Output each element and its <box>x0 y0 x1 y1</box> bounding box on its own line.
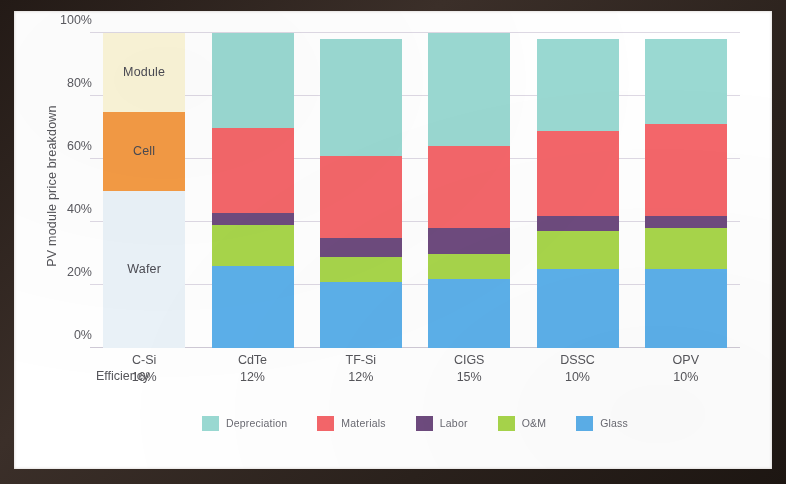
category-efficiency-value: 12% <box>307 369 415 386</box>
legend-label: O&M <box>522 417 547 429</box>
legend-item-materials[interactable]: Materials <box>317 416 385 431</box>
segment-glass[interactable] <box>320 282 402 348</box>
x-axis: Efficiency C-Si16%CdTe12%TF-Si12%CIGS15%… <box>90 352 740 398</box>
bar-group-cigs[interactable] <box>428 33 510 348</box>
pv-module-price-breakdown-chart: PV module price breakdown 100%80%60%40%2… <box>14 11 772 469</box>
y-tick-label-80: 80% <box>32 76 92 90</box>
x-axis-label-cigs: CIGS15% <box>415 352 523 386</box>
segment-o-m[interactable] <box>212 225 294 266</box>
category-efficiency-value: 15% <box>415 369 523 386</box>
bar-group-c-si[interactable]: ModuleCellWafer <box>103 33 185 348</box>
legend-label: Glass <box>600 417 628 429</box>
segment-materials[interactable] <box>320 156 402 238</box>
legend-item-glass[interactable]: Glass <box>576 416 628 431</box>
legend-swatch-icon <box>416 416 433 431</box>
category-efficiency-value: 12% <box>198 369 306 386</box>
segment-depreciation[interactable] <box>537 39 619 130</box>
bar-group-tf-si[interactable] <box>320 33 402 348</box>
bar-stack: ModuleCellWafer <box>103 33 185 348</box>
bar-group-dssc[interactable] <box>537 33 619 348</box>
segment-label-cell: Cell <box>103 144 185 158</box>
segment-labor[interactable] <box>428 228 510 253</box>
legend-label: Depreciation <box>226 417 287 429</box>
segment-o-m[interactable] <box>320 257 402 282</box>
x-axis-label-cdte: CdTe12% <box>198 352 306 386</box>
segment-label-module: Module <box>103 65 185 79</box>
bar-stack <box>212 33 294 348</box>
page-sheet: PV module price breakdown 100%80%60%40%2… <box>14 11 772 469</box>
legend-swatch-icon <box>576 416 593 431</box>
legend-item-labor[interactable]: Labor <box>416 416 468 431</box>
segment-glass[interactable] <box>645 269 727 348</box>
segment-depreciation[interactable] <box>428 33 510 146</box>
category-name: C-Si <box>90 352 198 369</box>
category-name: CdTe <box>198 352 306 369</box>
plot-area: 100%80%60%40%20%0% ModuleCellWafer <box>90 33 740 348</box>
category-name: CIGS <box>415 352 523 369</box>
segment-materials[interactable] <box>537 131 619 216</box>
bar-group-opv[interactable] <box>645 33 727 348</box>
legend-label: Materials <box>341 417 385 429</box>
segment-wafer[interactable]: Wafer <box>103 191 185 349</box>
segment-cell[interactable]: Cell <box>103 112 185 191</box>
segment-label-wafer: Wafer <box>103 262 185 276</box>
legend-item-depreciation[interactable]: Depreciation <box>202 416 287 431</box>
x-axis-label-c-si: C-Si16% <box>90 352 198 386</box>
segment-depreciation[interactable] <box>320 39 402 156</box>
category-efficiency-value: 16% <box>90 369 198 386</box>
category-name: DSSC <box>523 352 631 369</box>
segment-labor[interactable] <box>320 238 402 257</box>
category-name: TF-Si <box>307 352 415 369</box>
segment-glass[interactable] <box>428 279 510 348</box>
segment-materials[interactable] <box>428 146 510 228</box>
segment-depreciation[interactable] <box>645 39 727 124</box>
segment-o-m[interactable] <box>428 254 510 279</box>
bar-stack <box>537 33 619 348</box>
y-tick-label-0: 0% <box>32 328 92 342</box>
category-efficiency-value: 10% <box>523 369 631 386</box>
legend-label: Labor <box>440 417 468 429</box>
segment-o-m[interactable] <box>537 231 619 269</box>
legend-item-o-m[interactable]: O&M <box>498 416 547 431</box>
legend-swatch-icon <box>317 416 334 431</box>
x-axis-label-tf-si: TF-Si12% <box>307 352 415 386</box>
segment-glass[interactable] <box>212 266 294 348</box>
category-efficiency-value: 10% <box>632 369 740 386</box>
bar-group-cdte[interactable] <box>212 33 294 348</box>
x-axis-label-dssc: DSSC10% <box>523 352 631 386</box>
segment-glass[interactable] <box>537 269 619 348</box>
y-tick-label-100: 100% <box>32 13 92 27</box>
bar-stack <box>645 33 727 348</box>
y-tick-label-20: 20% <box>32 265 92 279</box>
x-axis-label-opv: OPV10% <box>632 352 740 386</box>
category-name: OPV <box>632 352 740 369</box>
segment-labor[interactable] <box>537 216 619 232</box>
segment-materials[interactable] <box>212 128 294 213</box>
y-tick-label-60: 60% <box>32 139 92 153</box>
legend-swatch-icon <box>498 416 515 431</box>
chart-legend: DepreciationMaterialsLaborO&MGlass <box>90 411 740 435</box>
bars-layer: ModuleCellWafer <box>90 33 740 348</box>
bar-stack <box>320 33 402 348</box>
segment-depreciation[interactable] <box>212 33 294 128</box>
segment-o-m[interactable] <box>645 228 727 269</box>
segment-labor[interactable] <box>645 216 727 229</box>
y-tick-label-40: 40% <box>32 202 92 216</box>
segment-module[interactable]: Module <box>103 33 185 112</box>
segment-labor[interactable] <box>212 213 294 226</box>
segment-materials[interactable] <box>645 124 727 215</box>
bar-stack <box>428 33 510 348</box>
legend-swatch-icon <box>202 416 219 431</box>
